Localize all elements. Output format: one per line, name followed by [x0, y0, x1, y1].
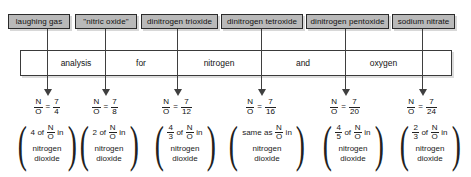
- note-no-fraction: N O: [47, 124, 55, 142]
- note-n: N: [109, 124, 117, 132]
- note-n: N: [47, 124, 55, 132]
- ratio-n: N: [93, 98, 101, 106]
- down-arrow-icon-4: [258, 89, 266, 96]
- ratio-no-fraction: N O: [34, 98, 42, 116]
- note-substance-line2: dioxide: [96, 154, 121, 163]
- ratio-n: N: [35, 98, 43, 106]
- down-arrow-icon-5: [342, 89, 350, 96]
- note-connector: of: [176, 128, 183, 137]
- ratio-numerator: 7: [111, 98, 117, 106]
- connector-line-2: [105, 29, 106, 50]
- compound-box-sodium-nitrate[interactable]: sodium nitrate: [392, 14, 455, 29]
- ratio-numerator: 7: [53, 98, 59, 106]
- note-multiplier-denominator: 5: [335, 132, 341, 141]
- ratio-denominator: 20: [349, 107, 360, 116]
- note-o: O: [109, 132, 117, 141]
- note-substance-line2: dioxide: [340, 154, 365, 163]
- note-multiplier-denominator: 3: [412, 132, 418, 141]
- ratio-o: O: [330, 107, 338, 116]
- arrow-stem-5: [345, 76, 346, 90]
- note-preposition: in: [196, 128, 202, 137]
- ratio-denominator: 12: [181, 107, 192, 116]
- arrow-stem-3: [177, 76, 178, 90]
- ratio-denominator: 8: [111, 107, 117, 116]
- note-multiplier-fraction: 4 5: [335, 124, 341, 142]
- note-substance-line1: nitrogen: [416, 144, 445, 153]
- note-group-5: ( 4 5 of N O in nitrogen dioxide ): [311, 118, 395, 170]
- note-multiplier-fraction: 4 3: [167, 124, 173, 142]
- note-multiplier: 4: [30, 128, 34, 137]
- note-preposition: in: [119, 128, 125, 137]
- ratio-expression-1: N O = 7 4: [17, 98, 77, 116]
- band-word-oxygen: oxygen: [345, 50, 422, 76]
- compound-label: laughing gas: [16, 18, 63, 26]
- equals-sign: =: [256, 102, 263, 111]
- ratio-o: O: [162, 107, 170, 116]
- note-o: O: [431, 132, 439, 141]
- ratio-expression-2: N O = 7 8: [75, 98, 135, 116]
- note-n: N: [186, 124, 194, 132]
- note-multiplier-numerator: 2: [412, 124, 418, 132]
- note-o: O: [275, 132, 283, 141]
- ratio-o: O: [407, 107, 415, 116]
- note-n: N: [275, 124, 283, 132]
- note-preposition: in: [57, 128, 63, 137]
- compound-label: dinitrogen tetroxide: [227, 18, 297, 26]
- arrow-stem-2: [105, 76, 106, 90]
- note-no-fraction: N O: [275, 124, 283, 142]
- ratio-numerator: 7: [428, 98, 434, 106]
- ratio-n: N: [330, 98, 338, 106]
- connector-line-3: [177, 29, 178, 50]
- note-o: O: [354, 132, 362, 141]
- note-substance-line2: dioxide: [417, 154, 442, 163]
- compound-box-dinitrogen-pentoxide[interactable]: dinitrogen pentoxide: [306, 14, 389, 29]
- ratio-numerator: 7: [351, 98, 357, 106]
- ratio-denominator: 4: [53, 107, 59, 116]
- analysis-diagram: laughing gas "nitric oxide" dinitrogen t…: [0, 0, 471, 177]
- note-group-4: ( same as N O in nitrogen dioxide ): [222, 118, 312, 170]
- ratio-expression-5: N O = 7 20: [315, 98, 375, 116]
- compound-box-laughing-gas[interactable]: laughing gas: [8, 14, 70, 29]
- note-connector: of: [37, 128, 44, 137]
- note-substance-line2: dioxide: [172, 154, 197, 163]
- compound-box-dinitrogen-tetroxide[interactable]: dinitrogen tetroxide: [221, 14, 303, 29]
- note-multiplier-numerator: 4: [335, 124, 341, 132]
- note-connector: of: [99, 128, 106, 137]
- note-preposition: in: [364, 128, 370, 137]
- note-substance-line1: nitrogen: [33, 144, 62, 153]
- ratio-numerator: 7: [183, 98, 189, 106]
- note-multiplier-fraction: 2 3: [412, 124, 418, 142]
- ratio-expression-4: N O = 7 16: [231, 98, 291, 116]
- arrow-stem-1: [47, 76, 48, 90]
- compound-label: dinitrogen trioxide: [147, 18, 212, 26]
- ratio-o: O: [34, 107, 42, 116]
- equals-sign: =: [417, 102, 424, 111]
- equals-sign: =: [340, 102, 347, 111]
- connector-line-6: [422, 29, 423, 50]
- ratio-no-fraction: N O: [162, 98, 170, 116]
- note-substance-line2: dioxide: [34, 154, 59, 163]
- equals-sign: =: [103, 102, 110, 111]
- ratio-no-fraction: N O: [407, 98, 415, 116]
- note-no-fraction: N O: [431, 124, 439, 142]
- ratio-n: N: [407, 98, 415, 106]
- arrow-stem-4: [261, 76, 262, 90]
- note-n: N: [431, 124, 439, 132]
- compound-box-dinitrogen-trioxide[interactable]: dinitrogen trioxide: [141, 14, 218, 29]
- compound-label: dinitrogen pentoxide: [310, 18, 384, 26]
- down-arrow-icon-1: [44, 89, 52, 96]
- note-no-fraction: N O: [354, 124, 362, 142]
- ratio-value-fraction: 7 4: [53, 98, 59, 116]
- note-connector: same as: [242, 128, 272, 137]
- ratio-value-fraction: 7 12: [181, 98, 192, 116]
- compound-label: "nitric oxide": [83, 18, 128, 26]
- compound-box-nitric-oxide[interactable]: "nitric oxide": [75, 14, 137, 29]
- compound-label: sodium nitrate: [398, 18, 450, 26]
- note-substance-line1: nitrogen: [253, 144, 282, 153]
- ratio-numerator: 7: [267, 98, 273, 106]
- arrow-stem-6: [422, 76, 423, 90]
- ratio-no-fraction: N O: [92, 98, 100, 116]
- band-word-for: for: [105, 50, 177, 76]
- ratio-o: O: [92, 107, 100, 116]
- note-multiplier-denominator: 3: [167, 132, 173, 141]
